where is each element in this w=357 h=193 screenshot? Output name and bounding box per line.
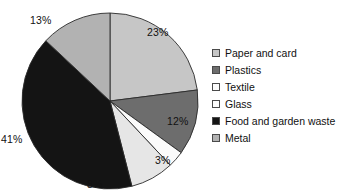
legend-swatch-icon xyxy=(212,117,220,125)
pie-chart-figure: 13% 23% 12% 3% 8% 41% Paper and card Pla… xyxy=(0,0,357,193)
pie-chart-svg xyxy=(14,12,204,193)
slice-label-glass: 3% xyxy=(155,155,170,166)
legend-item-label: Textile xyxy=(225,81,255,93)
legend-swatch-icon xyxy=(212,83,220,91)
legend-swatch-icon xyxy=(212,49,220,57)
legend-swatch-icon xyxy=(212,100,220,108)
legend-swatch-icon xyxy=(212,134,220,142)
slice-label-paper-and-card: 23% xyxy=(147,27,168,38)
slice-label-metal: 13% xyxy=(30,15,51,26)
legend-item-label: Metal xyxy=(225,132,251,144)
chart-legend: Paper and card Plastics Textile Glass Fo… xyxy=(212,44,357,146)
pie-slice-group xyxy=(22,13,198,189)
legend-item-plastics[interactable]: Plastics xyxy=(212,61,357,78)
slice-label-textile: 8% xyxy=(87,179,102,190)
legend-item-label: Paper and card xyxy=(225,47,297,59)
legend-item-textile[interactable]: Textile xyxy=(212,78,357,95)
legend-item-metal[interactable]: Metal xyxy=(212,129,357,146)
legend-item-paper-and-card[interactable]: Paper and card xyxy=(212,44,357,61)
slice-label-food-and-garden-waste: 41% xyxy=(1,134,22,145)
legend-item-label: Glass xyxy=(225,98,252,110)
legend-swatch-icon xyxy=(212,66,220,74)
legend-item-food-and-garden-waste[interactable]: Food and garden waste xyxy=(212,112,357,129)
legend-item-label: Food and garden waste xyxy=(225,115,335,127)
legend-item-label: Plastics xyxy=(225,64,261,76)
legend-item-glass[interactable]: Glass xyxy=(212,95,357,112)
slice-label-plastics: 12% xyxy=(167,116,188,127)
pie-chart-plot-area: 13% 23% 12% 3% 8% 41% xyxy=(14,12,204,193)
